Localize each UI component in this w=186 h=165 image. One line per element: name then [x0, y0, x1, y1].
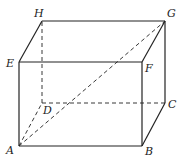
edge-CB [142, 103, 165, 146]
label-B: B [144, 145, 153, 158]
label-E: E [5, 57, 14, 70]
edge-GF [142, 21, 165, 62]
label-G: G [167, 7, 176, 20]
label-D: D [42, 104, 52, 117]
label-F: F [144, 62, 153, 75]
label-H: H [33, 7, 44, 20]
cube-diagram: H G E F D C A B [0, 0, 186, 165]
diagonal-AG [19, 21, 165, 146]
edge-AD [19, 103, 42, 146]
label-A: A [5, 144, 14, 157]
label-C: C [168, 98, 177, 111]
edge-EH [19, 21, 42, 62]
